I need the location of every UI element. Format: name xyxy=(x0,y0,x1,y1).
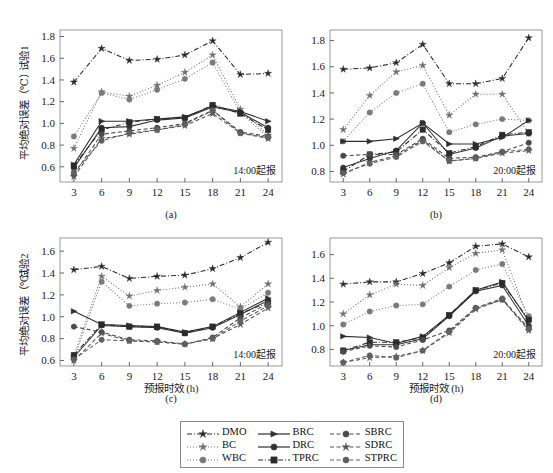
data-point-marker xyxy=(420,139,425,144)
panel-annotation-c: 14:00起报 xyxy=(233,348,276,360)
data-point-marker xyxy=(127,303,132,308)
x-tick-label: 21 xyxy=(497,186,508,198)
data-point-marker xyxy=(341,360,346,365)
data-point-marker xyxy=(420,81,425,86)
data-point-marker xyxy=(500,149,505,154)
panel-caption-c: (c) xyxy=(165,393,177,405)
legend-marker-circle-icon xyxy=(329,452,363,464)
data-point-marker xyxy=(447,329,452,334)
x-tick-label: 9 xyxy=(394,186,400,198)
data-point-marker xyxy=(199,442,207,450)
legend-label: SBRC xyxy=(363,426,392,437)
x-tick-label: 9 xyxy=(127,370,133,382)
legend-entry-bc: BC xyxy=(186,438,247,451)
legend-label: DRC xyxy=(291,439,315,450)
legend-label: SDRC xyxy=(363,439,392,450)
x-tick-label: 3 xyxy=(71,370,77,382)
x-tick-label: 15 xyxy=(179,186,191,198)
legend-label: TPRC xyxy=(291,452,319,463)
x-tick-label: 18 xyxy=(207,370,219,382)
x-axis-title-d: 预报时效 (h) xyxy=(409,382,464,395)
data-point-marker xyxy=(238,130,243,135)
data-point-marker xyxy=(420,302,425,307)
data-point-marker xyxy=(265,290,270,295)
data-point-marker xyxy=(71,170,76,175)
x-tick-label: 6 xyxy=(99,186,105,198)
data-point-marker xyxy=(342,442,350,450)
y-tick-label: 1.4 xyxy=(311,272,325,284)
data-point-marker xyxy=(473,287,478,292)
y-tick-label: 1.0 xyxy=(311,320,325,332)
x-tick-label: 15 xyxy=(179,370,191,382)
data-point-marker xyxy=(127,338,132,343)
data-point-marker xyxy=(265,303,270,308)
data-point-marker xyxy=(99,322,104,327)
data-point-marker xyxy=(265,135,270,140)
chart-canvas: 0.60.81.01.21.41.61.8369121518212414:00起… xyxy=(0,0,553,473)
y-tick-label: 1.8 xyxy=(41,30,55,42)
data-point-marker xyxy=(341,349,346,354)
panel-annotation-b: 20:00起报 xyxy=(493,164,536,176)
x-tick-label: 9 xyxy=(127,186,133,198)
data-point-marker xyxy=(154,301,159,306)
x-axis-title-c: 预报时效 (h) xyxy=(144,382,199,395)
data-point-marker xyxy=(127,120,132,125)
data-point-marker xyxy=(127,130,132,135)
data-point-marker xyxy=(367,343,372,348)
data-point-marker xyxy=(526,140,531,145)
y-tick-label: 1.6 xyxy=(41,245,55,257)
data-point-marker xyxy=(526,147,531,152)
x-tick-label: 12 xyxy=(417,186,428,198)
data-point-marker xyxy=(367,309,372,314)
x-tick-label: 9 xyxy=(394,370,400,382)
y-tick-label: 1.2 xyxy=(41,95,55,107)
data-point-marker xyxy=(182,76,187,81)
data-point-marker xyxy=(154,339,159,344)
data-point-marker xyxy=(394,154,399,159)
data-point-marker xyxy=(420,348,425,353)
data-point-marker xyxy=(447,150,452,155)
data-point-marker xyxy=(367,161,372,166)
legend-marker-circle-icon xyxy=(257,439,291,451)
x-tick-label: 12 xyxy=(417,370,428,382)
chart-legend: DMOBRCSBRCBCDRCSDRCWBCTPRCSTPRC xyxy=(180,421,404,468)
x-tick-label: 24 xyxy=(523,370,535,382)
data-point-marker xyxy=(210,60,215,65)
data-point-marker xyxy=(71,324,76,329)
data-point-marker xyxy=(182,300,187,305)
legend-label: WBC xyxy=(220,452,246,463)
data-point-marker xyxy=(420,127,425,132)
data-point-marker xyxy=(182,341,187,346)
data-point-marker xyxy=(394,355,399,360)
x-tick-label: 6 xyxy=(99,370,105,382)
legend-marker-star-icon xyxy=(329,439,363,451)
data-point-marker xyxy=(270,443,276,449)
legend-marker-star-icon xyxy=(186,426,220,438)
data-point-marker xyxy=(500,261,505,266)
x-tick-label: 6 xyxy=(367,370,373,382)
data-point-marker xyxy=(394,303,399,308)
data-point-marker xyxy=(500,296,505,301)
data-point-marker xyxy=(238,111,243,116)
data-point-marker xyxy=(154,87,159,92)
data-point-marker xyxy=(99,90,104,95)
data-point-marker xyxy=(182,122,187,127)
data-point-marker xyxy=(182,330,187,335)
data-point-marker xyxy=(210,336,215,341)
legend-entry-dmo: DMO xyxy=(186,425,247,438)
data-point-marker xyxy=(500,116,505,121)
data-point-marker xyxy=(343,456,349,462)
legend-marker-circle-icon xyxy=(329,426,363,438)
data-point-marker xyxy=(367,152,372,157)
data-point-marker xyxy=(182,115,187,120)
data-point-marker xyxy=(99,337,104,342)
y-tick-label: 1.0 xyxy=(311,139,325,151)
data-point-marker xyxy=(447,130,452,135)
x-tick-label: 3 xyxy=(341,370,347,382)
panel-b: 0.81.01.21.41.61.8369121518212420:00起报 xyxy=(311,30,542,198)
panel-d: 0.81.01.21.41.6369121518212420:00起报 xyxy=(311,238,542,382)
data-point-marker xyxy=(154,324,159,329)
data-point-marker xyxy=(473,267,478,272)
x-tick-label: 24 xyxy=(263,370,275,382)
data-point-marker xyxy=(343,430,349,436)
